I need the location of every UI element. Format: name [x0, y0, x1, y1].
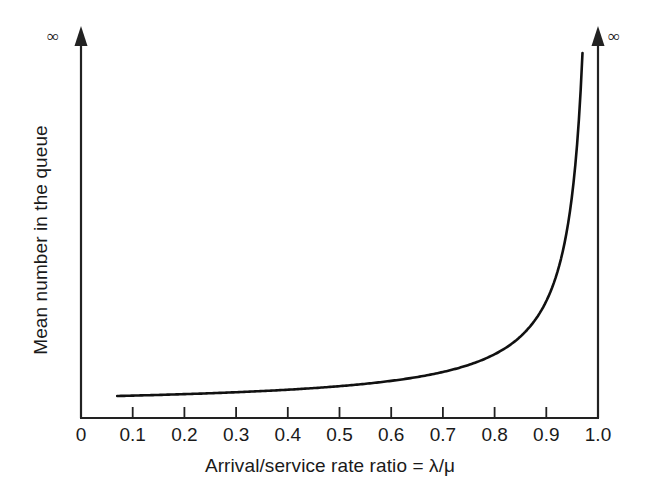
y-axis [75, 26, 88, 418]
x-axis-ticks [133, 407, 547, 418]
right-asymptote-axis [592, 26, 605, 418]
right-axis-infinity-label: ∞ [608, 27, 620, 47]
x-tick-label-1-0: 1.0 [568, 424, 628, 446]
x-axis-title: Arrival/service rate ratio = λ/μ [0, 455, 660, 477]
chart-figure: ∞ ∞ Mean number in the queue Arrival/ser… [0, 0, 660, 499]
y-axis-title: Mean number in the queue [30, 30, 56, 450]
queue-length-curve [117, 53, 582, 396]
